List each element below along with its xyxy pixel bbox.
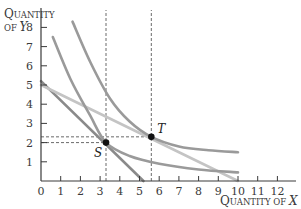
x-tick-label: 3 — [97, 185, 104, 198]
budget-line-flat — [41, 85, 238, 181]
x-axis-title: QUANTITY OF X — [220, 194, 298, 208]
x-tick-label: 1 — [57, 185, 64, 198]
x-tick-label: 2 — [77, 185, 84, 198]
x-tick-label: 7 — [175, 185, 182, 198]
ticks: 012345678910111212345678 — [26, 21, 284, 198]
y-axis-title-line1: QUANTITY — [4, 7, 55, 21]
point-label-t: T — [157, 122, 166, 136]
x-tick-label: 5 — [136, 185, 143, 198]
point-s — [103, 139, 110, 146]
y-tick-label: 2 — [26, 137, 33, 150]
y-tick-label: 7 — [26, 41, 33, 54]
x-tick-label: 0 — [38, 185, 45, 198]
budget-line-steep — [41, 81, 143, 181]
curves — [41, 22, 238, 181]
indifference-curve-chart: 012345678910111212345678 ST QUANTITY OF … — [0, 0, 301, 209]
indifference-curve-high — [73, 22, 238, 153]
y-tick-label: 3 — [26, 117, 33, 130]
x-tick-label: 4 — [116, 185, 123, 198]
point-label-s: S — [94, 146, 102, 160]
y-tick-label: 6 — [26, 60, 33, 73]
y-tick-label: 1 — [26, 156, 33, 169]
y-tick-label: 4 — [26, 98, 33, 111]
y-axis-title-line2: OF Y — [4, 20, 29, 34]
x-tick-label: 8 — [195, 185, 202, 198]
point-t — [148, 134, 155, 141]
y-tick-label: 5 — [26, 79, 33, 92]
x-tick-label: 6 — [156, 185, 163, 198]
